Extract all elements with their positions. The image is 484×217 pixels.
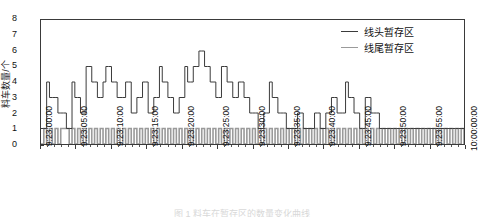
x-minor-tick [330, 145, 331, 147]
x-minor-tick [97, 145, 98, 147]
x-tick-label: 9:23:05:00 [79, 106, 90, 196]
x-minor-tick [309, 145, 310, 147]
y-tick-label: 1 [0, 124, 17, 133]
x-tick-mark [465, 145, 466, 149]
chart-legend: 线头暂存区 线尾暂存区 [337, 21, 463, 57]
x-minor-tick [444, 145, 445, 147]
x-tick-mark [394, 145, 395, 149]
x-minor-tick [175, 145, 176, 147]
x-minor-tick [458, 145, 459, 147]
x-minor-tick [245, 145, 246, 147]
x-minor-tick [345, 145, 346, 147]
x-tick-label: 9:23:35:00 [292, 106, 303, 196]
x-tick-mark [288, 145, 289, 149]
x-minor-tick [196, 145, 197, 147]
x-tick-mark [359, 145, 360, 149]
x-tick-mark [75, 145, 76, 149]
x-minor-tick [451, 145, 452, 147]
x-minor-tick [437, 145, 438, 147]
x-tick-mark [182, 145, 183, 149]
x-tick-label: 9:23:40:00 [327, 106, 338, 196]
x-minor-tick [139, 145, 140, 147]
x-minor-tick [54, 145, 55, 147]
x-tick-label: 10:00:00:00 [469, 106, 480, 196]
y-tick-label: 2 [0, 109, 17, 118]
legend-swatch-head-buffer [341, 31, 358, 32]
legend-label-tail-buffer: 线尾暂存区 [364, 40, 414, 55]
x-minor-tick [47, 145, 48, 147]
x-minor-tick [366, 145, 367, 147]
x-minor-tick [373, 145, 374, 147]
x-minor-tick [302, 145, 303, 147]
y-tick-label: 4 [0, 77, 17, 86]
x-minor-tick [104, 145, 105, 147]
x-tick-label: 9:23:00:00 [44, 106, 55, 196]
figure-container: 料车数量/个 012345678 9:23:00:009:23:05:009:2… [0, 0, 484, 217]
x-minor-tick [153, 145, 154, 147]
y-tick-label: 8 [0, 14, 17, 23]
x-minor-tick [210, 145, 211, 147]
x-minor-tick [415, 145, 416, 147]
x-tick-label: 9:23:15:00 [150, 106, 161, 196]
x-tick-mark [253, 145, 254, 149]
y-tick-label: 5 [0, 61, 17, 70]
x-minor-tick [352, 145, 353, 147]
x-minor-tick [68, 145, 69, 147]
x-tick-label: 9:23:45:00 [363, 106, 374, 196]
x-minor-tick [118, 145, 119, 147]
x-minor-tick [401, 145, 402, 147]
x-tick-mark [111, 145, 112, 149]
x-tick-label: 9:23:10:00 [115, 106, 126, 196]
x-minor-tick [189, 145, 190, 147]
x-tick-mark [430, 145, 431, 149]
legend-label-head-buffer: 线头暂存区 [364, 24, 414, 39]
y-tick-label: 7 [0, 30, 17, 39]
x-minor-tick [408, 145, 409, 147]
x-minor-tick [168, 145, 169, 147]
x-minor-tick [83, 145, 84, 147]
x-tick-mark [323, 145, 324, 149]
x-minor-tick [203, 145, 204, 147]
x-minor-tick [281, 145, 282, 147]
x-minor-tick [423, 145, 424, 147]
y-tick-label: 3 [0, 93, 17, 102]
legend-item-head-buffer[interactable]: 线头暂存区 [341, 23, 459, 39]
legend-swatch-tail-buffer [341, 47, 358, 48]
y-tick-label: 6 [0, 46, 17, 55]
x-minor-tick [132, 145, 133, 147]
x-minor-tick [260, 145, 261, 147]
x-tick-label: 9:23:30:00 [257, 106, 268, 196]
x-minor-tick [380, 145, 381, 147]
x-minor-tick [267, 145, 268, 147]
x-minor-tick [316, 145, 317, 147]
y-tick-label: 0 [0, 140, 17, 149]
x-tick-mark [146, 145, 147, 149]
legend-item-tail-buffer[interactable]: 线尾暂存区 [341, 39, 459, 55]
x-minor-tick [160, 145, 161, 147]
x-tick-label: 9:23:25:00 [221, 106, 232, 196]
x-minor-tick [274, 145, 275, 147]
x-tick-label: 9:23:50:00 [398, 106, 409, 196]
x-minor-tick [295, 145, 296, 147]
x-minor-tick [125, 145, 126, 147]
x-minor-tick [238, 145, 239, 147]
x-minor-tick [338, 145, 339, 147]
figure-caption: 图 1 料车在暂存区的数量变化曲线 [0, 207, 484, 217]
x-tick-label: 9:23:55:00 [434, 106, 445, 196]
x-tick-label: 9:23:20:00 [186, 106, 197, 196]
x-minor-tick [90, 145, 91, 147]
x-minor-tick [231, 145, 232, 147]
x-minor-tick [387, 145, 388, 147]
x-minor-tick [224, 145, 225, 147]
x-tick-mark [40, 145, 41, 149]
x-minor-tick [61, 145, 62, 147]
x-tick-mark [217, 145, 218, 149]
